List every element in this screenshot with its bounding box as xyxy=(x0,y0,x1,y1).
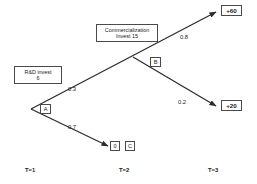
commercialization-amount: Invest 15 xyxy=(100,33,154,39)
rnd-invest-box: R&D invest 6 xyxy=(14,66,62,84)
decision-tree-diagram: R&D invest 6 Commercialization Invest 15… xyxy=(0,0,257,184)
edge-label-b-down: 0.2 xyxy=(178,99,186,105)
terminal-payoff-top: +60 xyxy=(221,5,242,16)
commercialization-box: Commercialization Invest 15 xyxy=(96,24,158,42)
zero-payoff-box: 0 xyxy=(110,141,120,151)
timeline-label-t3: T=3 xyxy=(208,167,218,173)
edge-label-a-up: 0.3 xyxy=(68,86,76,92)
decision-node-b: B xyxy=(150,57,161,67)
terminal-payoff-bottom: +20 xyxy=(221,100,242,111)
edge-label-a-down: 0.7 xyxy=(68,124,76,130)
timeline-label-t1: T=1 xyxy=(25,167,35,173)
edge-b-to-plus20 xyxy=(133,57,216,106)
node-c-box: C xyxy=(125,141,135,151)
rnd-invest-amount: 6 xyxy=(18,75,58,81)
edge-label-b-up: 0.8 xyxy=(180,34,188,40)
decision-node-a: A xyxy=(40,104,51,114)
timeline-label-t2: T=2 xyxy=(119,167,129,173)
